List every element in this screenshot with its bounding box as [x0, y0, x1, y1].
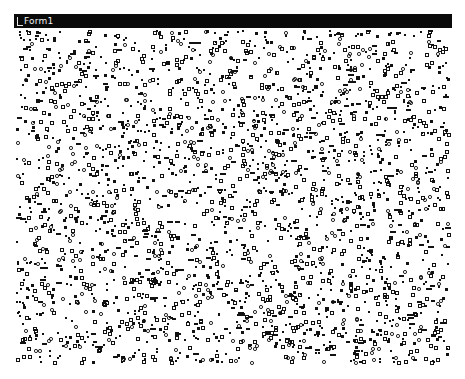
- dot: [68, 83, 71, 86]
- dot: [409, 216, 412, 219]
- dot: [215, 217, 218, 220]
- dot: [186, 355, 189, 358]
- dot: [400, 210, 402, 212]
- dot: [146, 341, 148, 343]
- dot: [263, 187, 265, 189]
- dot: [26, 273, 29, 276]
- dot: [360, 338, 363, 341]
- dot: [26, 317, 29, 320]
- dot: [150, 297, 153, 300]
- dot: [303, 30, 306, 33]
- dot: [260, 272, 262, 274]
- dot: [430, 148, 433, 151]
- dot: [25, 65, 28, 68]
- dot: [369, 68, 371, 70]
- dot: [250, 344, 252, 346]
- dot: [253, 110, 255, 112]
- dot: [106, 322, 108, 324]
- dot: [446, 222, 449, 225]
- dot: [211, 201, 214, 204]
- dot: [305, 228, 308, 231]
- dot: [128, 357, 131, 360]
- dot: [388, 241, 391, 244]
- form-client-area[interactable]: [14, 28, 452, 366]
- dot: [74, 295, 77, 298]
- dot: [377, 139, 379, 141]
- dot: [283, 183, 286, 186]
- dot: [240, 341, 243, 344]
- dot: [162, 118, 166, 120]
- dot: [90, 128, 93, 131]
- dot: [189, 181, 191, 183]
- dot: [282, 150, 284, 152]
- dot: [104, 98, 106, 100]
- dot: [186, 116, 188, 118]
- dot: [291, 356, 294, 359]
- dot: [68, 177, 70, 179]
- dot: [287, 230, 289, 232]
- dot: [388, 213, 391, 216]
- dot: [106, 283, 108, 285]
- dot: [35, 38, 37, 40]
- dot: [397, 252, 399, 254]
- dot: [337, 199, 339, 201]
- dot: [437, 40, 441, 42]
- dot: [410, 351, 413, 354]
- dot: [45, 136, 48, 139]
- dot: [161, 175, 164, 178]
- dot: [65, 194, 68, 197]
- dot: [445, 227, 451, 229]
- dot: [295, 286, 298, 289]
- dot: [51, 294, 54, 297]
- dot: [169, 108, 172, 111]
- dot: [430, 120, 433, 123]
- dot: [363, 199, 365, 201]
- dot: [132, 355, 135, 358]
- dot: [338, 65, 340, 67]
- dot: [222, 152, 224, 154]
- dot: [144, 131, 146, 133]
- dot: [241, 331, 244, 334]
- dot: [92, 168, 95, 171]
- dot: [119, 231, 122, 234]
- dot: [428, 205, 430, 207]
- dot: [251, 235, 254, 238]
- dot: [19, 315, 21, 317]
- dot: [38, 159, 40, 161]
- dot: [100, 217, 103, 220]
- dot: [90, 100, 92, 102]
- dot: [278, 106, 280, 108]
- dot: [134, 310, 136, 312]
- dot: [202, 127, 204, 129]
- dot: [286, 51, 288, 53]
- dot: [202, 327, 205, 330]
- dot: [160, 258, 162, 260]
- dot: [20, 37, 22, 39]
- dot: [92, 175, 97, 177]
- dot: [322, 58, 325, 61]
- dot: [135, 140, 137, 142]
- dot: [269, 85, 271, 87]
- dot: [92, 310, 95, 313]
- dot: [310, 193, 312, 195]
- title-bar[interactable]: Form1: [14, 14, 452, 28]
- dot: [354, 192, 356, 194]
- dot: [213, 129, 216, 132]
- window-system-menu-icon[interactable]: [17, 17, 23, 26]
- dot: [367, 276, 370, 279]
- dot: [93, 341, 95, 343]
- dot: [271, 260, 273, 262]
- dot: [239, 313, 241, 315]
- dot: [341, 282, 344, 285]
- dot: [71, 250, 74, 253]
- dot: [35, 83, 38, 86]
- dot: [153, 241, 156, 244]
- dot: [163, 297, 167, 299]
- dot: [345, 90, 348, 93]
- dot: [26, 287, 29, 290]
- dot: [375, 50, 377, 52]
- dot: [333, 346, 336, 349]
- dot: [281, 228, 284, 231]
- dot: [107, 338, 110, 341]
- dot: [125, 219, 127, 221]
